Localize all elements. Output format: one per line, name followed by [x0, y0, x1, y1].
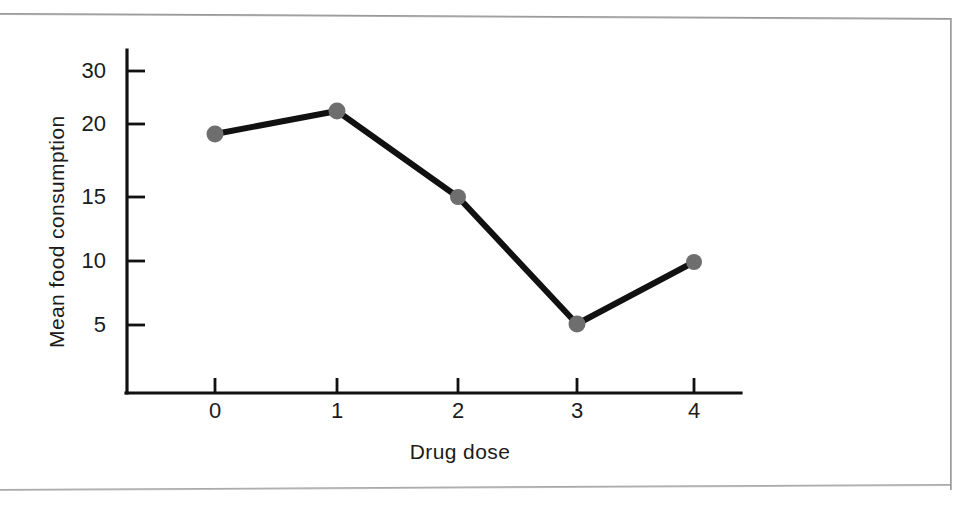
y-axis-title: Mean food consumption — [45, 115, 69, 348]
y-axis-ticks — [128, 71, 145, 325]
data-point-dose-0[interactable] — [207, 126, 224, 143]
data-point-dose-4[interactable] — [686, 254, 702, 270]
figure-container: 30 20 15 10 5 0 1 2 3 4 Drug dose Mean f… — [0, 0, 977, 512]
line-chart-plot — [0, 0, 977, 512]
y-tick-label-30: 30 — [48, 58, 106, 84]
x-tick-label-0: 0 — [195, 398, 235, 424]
data-series-line — [215, 111, 694, 324]
x-tick-label-2: 2 — [438, 398, 478, 424]
x-tick-label-4: 4 — [674, 398, 714, 424]
data-point-dose-1[interactable] — [329, 103, 346, 120]
data-point-dose-2[interactable] — [450, 189, 466, 205]
x-tick-label-1: 1 — [317, 398, 357, 424]
x-axis-title: Drug dose — [0, 440, 920, 464]
x-tick-label-3: 3 — [557, 398, 597, 424]
x-axis-ticks — [215, 378, 694, 393]
data-point-dose-3[interactable] — [569, 316, 586, 333]
